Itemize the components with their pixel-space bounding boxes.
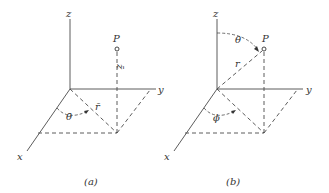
r-label-b: r	[235, 58, 241, 69]
x-label-a: x	[17, 151, 23, 162]
theta-label-b: θ	[235, 34, 241, 45]
radius-projection-a	[70, 89, 117, 133]
phi-label-b: ϕ	[213, 112, 220, 123]
caption-a: (a)	[84, 176, 98, 187]
point-p-b	[262, 47, 266, 51]
theta-bar-label-a: θ̄	[66, 111, 72, 122]
theta-arrowhead-b	[254, 46, 259, 52]
point-label-b: P	[261, 33, 269, 44]
y-parallel-dash-b	[264, 90, 297, 133]
point-label-a: P	[112, 33, 120, 44]
caption-b: (b)	[226, 176, 240, 187]
phi-arrowhead-b	[231, 110, 236, 114]
x-axis-a	[27, 89, 70, 151]
r-bar-label-a: r̄	[95, 101, 101, 112]
radius-r-b	[217, 51, 262, 89]
x-axis-b	[174, 89, 217, 151]
arc-arrowhead-a	[84, 110, 89, 114]
panel-b-spherical: z y x P r θ ϕ (b)	[164, 8, 312, 187]
y-label-b: y	[305, 84, 312, 95]
point-p-a	[115, 47, 119, 51]
z-label-b: z	[212, 8, 219, 19]
radius-projection-b	[217, 89, 264, 133]
theta-bar-arc-a	[57, 108, 88, 115]
x-label-b: x	[164, 151, 170, 162]
y-label-a: y	[157, 84, 164, 95]
z-bar-label-a: z̄	[115, 63, 126, 70]
coordinate-diagrams: z y x P z̄ r̄ θ̄ (a) z y x P r θ ϕ (b)	[0, 0, 329, 193]
y-parallel-dash-a	[117, 90, 150, 133]
panel-a-cylindrical: z y x P z̄ r̄ θ̄ (a)	[17, 8, 164, 187]
z-label-a: z	[65, 8, 72, 19]
